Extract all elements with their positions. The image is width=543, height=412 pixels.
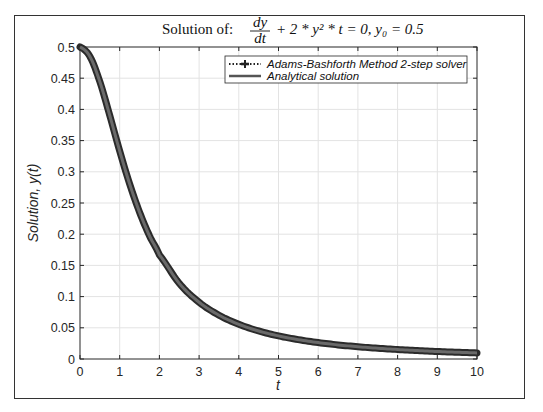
y-tick-labels: 00.050.10.150.20.250.30.350.40.450.5	[51, 41, 75, 367]
x-tick-label: 6	[315, 365, 322, 379]
title-frac-denominator: dt	[254, 30, 267, 46]
title-frac-numerator: dy	[253, 14, 268, 30]
y-tick-label: 0.45	[51, 72, 75, 86]
y-axis-label: Solution, y(t)	[25, 164, 41, 243]
chart-title: Solution of: dy dt + 2 * y² * t = 0, y₀ …	[162, 14, 424, 46]
chart: Solution of: dy dt + 2 * y² * t = 0, y₀ …	[0, 0, 543, 412]
x-tick-label: 0	[77, 365, 84, 379]
y-tick-label: 0.25	[51, 197, 75, 211]
y-tick-label: 0.1	[58, 290, 75, 304]
x-tick-label: 2	[156, 365, 163, 379]
y-tick-label: 0.4	[58, 103, 75, 117]
y-tick-label: 0.2	[58, 228, 75, 242]
x-tick-labels: 012345678910	[77, 365, 484, 379]
x-tick-label: 3	[196, 365, 203, 379]
y-tick-label: 0.05	[51, 321, 75, 335]
x-tick-label: 4	[235, 365, 242, 379]
legend[interactable]: Adams-Bashforth Method 2-step solver Ana…	[225, 56, 468, 83]
x-tick-label: 10	[470, 365, 484, 379]
x-axis-label: t	[276, 377, 281, 393]
title-prefix: Solution of:	[162, 21, 233, 37]
legend-entry-adams-bashforth: Adams-Bashforth Method 2-step solver	[266, 58, 468, 70]
y-tick-label: 0.5	[58, 41, 75, 55]
title-equation-rest: + 2 * y² * t = 0, y₀ = 0.5	[276, 21, 424, 37]
legend-entry-analytical: Analytical solution	[266, 70, 359, 82]
y-tick-label: 0.3	[58, 165, 75, 179]
y-tick-label: 0.35	[51, 134, 75, 148]
y-tick-label: 0.15	[51, 259, 75, 273]
x-tick-label: 1	[116, 365, 123, 379]
x-tick-label: 9	[434, 365, 441, 379]
x-tick-label: 8	[394, 365, 401, 379]
y-tick-label: 0	[68, 353, 75, 367]
x-tick-label: 7	[354, 365, 361, 379]
